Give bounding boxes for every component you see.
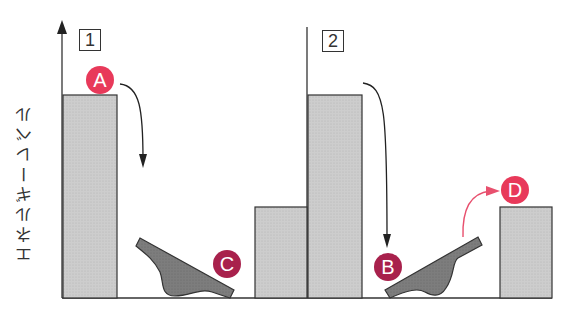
bar-1-high — [63, 95, 117, 298]
arrow-a-down — [120, 84, 143, 160]
energy-diagram: A B C D — [0, 0, 576, 322]
bar-1-low — [255, 207, 307, 298]
marker-a: A — [86, 66, 114, 94]
arrow-to-b — [363, 83, 387, 240]
svg-text:C: C — [220, 253, 234, 275]
marker-d: D — [501, 176, 529, 204]
marker-c: C — [213, 250, 241, 278]
arrow-head-icon — [139, 154, 147, 168]
marker-b: B — [374, 253, 402, 281]
bar-2-high — [308, 95, 362, 298]
arrow-to-d — [463, 191, 490, 237]
svg-text:A: A — [93, 69, 107, 91]
svg-text:B: B — [381, 256, 394, 278]
arrow-head-icon — [383, 234, 391, 248]
bar-2-low — [500, 207, 552, 298]
axis-arrow-icon — [57, 20, 67, 34]
arrow-head-icon — [486, 186, 500, 196]
svg-text:D: D — [508, 179, 522, 201]
